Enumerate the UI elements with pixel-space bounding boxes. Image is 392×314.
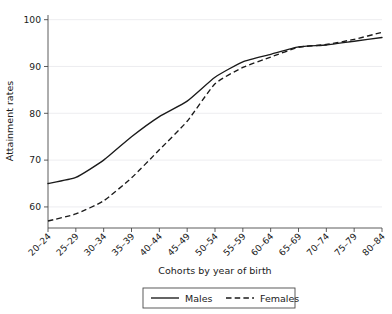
legend: Males Females bbox=[143, 288, 299, 308]
y-tick-label-60: 60 bbox=[29, 201, 41, 212]
y-tick-label-90: 90 bbox=[29, 61, 41, 72]
legend-label-males: Males bbox=[185, 293, 213, 304]
chart-container: 60708090100 20–2425–2930–3435–3940–4445–… bbox=[0, 0, 392, 314]
y-tick-label-100: 100 bbox=[23, 14, 41, 25]
y-axis-title: Attainment rates bbox=[4, 81, 15, 161]
legend-label-females: Females bbox=[260, 293, 299, 304]
y-tick-label-80: 80 bbox=[29, 108, 41, 119]
x-axis-title: Cohorts by year of birth bbox=[158, 265, 271, 276]
attainment-rates-line-chart: 60708090100 20–2425–2930–3435–3940–4445–… bbox=[0, 0, 392, 314]
y-tick-label-70: 70 bbox=[29, 154, 41, 165]
